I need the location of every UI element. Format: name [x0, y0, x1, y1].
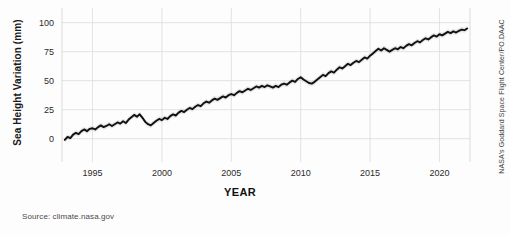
y-tick-label: 0	[49, 134, 54, 144]
y-tick-label: 50	[44, 76, 54, 86]
y-tick-label: 100	[39, 18, 54, 28]
uncertainty-band	[65, 26, 467, 143]
x-tick-label: 2020	[429, 168, 449, 178]
y-axis-title: Sea Height Variation (mm)	[12, 19, 23, 145]
source-note: Source: climate.nasa.gov	[22, 212, 114, 221]
x-tick-label: 1995	[83, 168, 103, 178]
chart-plot-area: 0255075100 199520002005201020152020	[0, 0, 510, 235]
y-tick-label: 75	[44, 47, 54, 57]
y-tick-labels: 0255075100	[39, 18, 54, 144]
x-tick-label: 2000	[152, 168, 172, 178]
data-credit: NASA's Goddard Space Flight Center/PO.DA…	[498, 19, 505, 174]
x-axis-title: YEAR	[0, 186, 480, 198]
x-tick-label: 2005	[221, 168, 241, 178]
x-tick-labels: 199520002005201020152020	[83, 168, 450, 178]
y-axis-title-wrap: Sea Height Variation (mm)	[4, 0, 30, 165]
sea-level-chart-figure: 0255075100 199520002005201020152020 Sea …	[0, 0, 510, 235]
y-tick-label: 25	[44, 105, 54, 115]
credit-wrap: NASA's Goddard Space Flight Center/PO.DA…	[493, 4, 509, 189]
x-tick-label: 2015	[360, 168, 380, 178]
x-tick-label: 2010	[291, 168, 311, 178]
